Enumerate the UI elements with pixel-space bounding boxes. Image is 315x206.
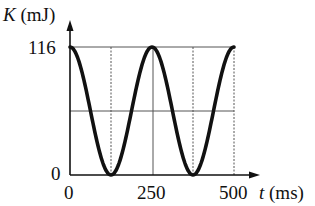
chart-plot	[0, 0, 315, 206]
y-tick-0: 0	[51, 164, 61, 183]
grid-lines	[70, 47, 234, 175]
y-axis-arrow-icon	[67, 20, 74, 31]
x-tick-500: 500	[219, 183, 248, 202]
x-axis-arrow-icon	[249, 172, 260, 179]
y-axis-label: K (mJ)	[3, 5, 55, 24]
y-tick-116: 116	[28, 38, 56, 57]
axes	[70, 26, 254, 175]
x-tick-0: 0	[64, 183, 74, 202]
x-tick-250: 250	[137, 183, 166, 202]
x-axis-label: t (ms)	[259, 183, 304, 202]
